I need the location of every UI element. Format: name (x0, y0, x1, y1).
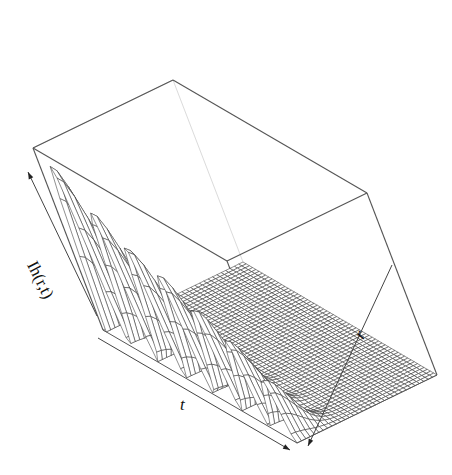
surface-plot (0, 0, 452, 475)
x-axis-arrow-head-icon (283, 444, 290, 450)
box-edge-top (33, 80, 173, 148)
x-axis-label: t (180, 395, 185, 415)
box-edge-top (227, 193, 367, 261)
y-axis-arrow-head-icon (308, 439, 313, 446)
box-edge-hidden (173, 80, 243, 262)
surface-mesh (50, 167, 437, 444)
box-edge-top (173, 80, 367, 193)
mesh-cell (157, 350, 163, 361)
z-axis-arrow-head-icon (28, 172, 33, 179)
